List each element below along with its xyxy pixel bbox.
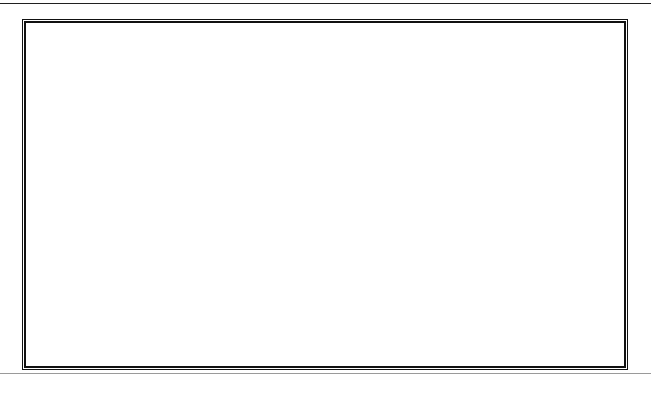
notes-divider xyxy=(0,373,651,374)
top-rule xyxy=(0,3,651,4)
notes-section xyxy=(2,378,649,379)
chart-plot-svg xyxy=(26,23,632,374)
notes-cutoff-line xyxy=(2,408,649,416)
area-chart xyxy=(26,23,632,374)
y-axis-title xyxy=(38,115,62,211)
chart-frame-outer xyxy=(22,19,628,370)
chart-frame-inner xyxy=(24,21,626,368)
chart-page xyxy=(0,0,651,416)
